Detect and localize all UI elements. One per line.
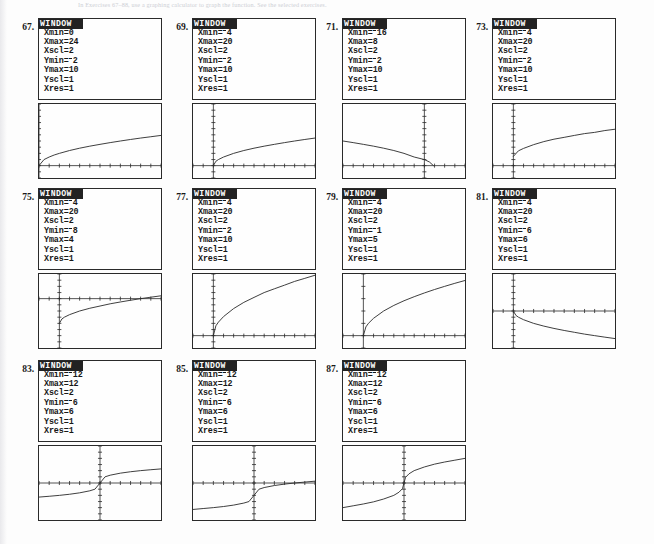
window-settings-list: Xmin=4Xmax=20Xscl=2Ymin=1Ymax=5Yscl=1Xre… [343,199,465,265]
exercise-number: 71. [312,22,338,32]
window-row-xres: Xres=1 [198,427,315,436]
graph-panel [342,445,466,521]
negative-sign: 4 [523,198,532,208]
calculator-screen: WINDOW Xmin=12Xmax=12Xscl=2Ymin=6Ymax=6Y… [38,360,162,521]
window-row-xres: Xres=1 [44,85,161,94]
page-header-text: In Exercises 67–88, use a graphing calcu… [78,1,378,9]
negative-sign: 4 [69,198,78,208]
exercise-number: 85. [162,364,188,374]
graph-panel [38,445,162,521]
scan-edge-artifact [0,0,7,544]
window-settings-list: Xmin=12Xmax=12Xscl=2Ymin=6Ymax=6Yscl=1Xr… [193,371,315,437]
window-settings-panel: WINDOW Xmin=0Xmax=24Xscl=2Ymin=2Ymax=10Y… [38,18,162,100]
exercise-number: 83. [8,364,34,374]
window-settings-list: Xmin=4Xmax=20Xscl=2Ymin=2Ymax=10Yscl=1Xr… [193,199,315,265]
window-settings-panel: WINDOW Xmin=4Xmax=20Xscl=2Ymin=6Ymax=6Ys… [492,188,616,270]
window-settings-panel: WINDOW Xmin=4Xmax=20Xscl=2Ymin=2Ymax=10Y… [492,18,616,100]
calculator-screen: WINDOW Xmin=4Xmax=20Xscl=2Ymin=2Ymax=10Y… [492,18,616,179]
exercise-number: 69. [162,22,188,32]
negative-sign: 6 [69,398,78,408]
calculator-graph-curve [193,104,315,178]
negative-sign: 6 [523,226,532,236]
calculator-screen: WINDOW Xmin=12Xmax=12Xscl=2Ymin=6Ymax=6Y… [192,360,316,521]
calculator-screen: WINDOW Xmin=4Xmax=20Xscl=2Ymin=8Ymax=4Ys… [38,188,162,349]
window-row-xres: Xres=1 [44,255,161,264]
window-settings-list: Xmin=4Xmax=20Xscl=2Ymin=8Ymax=4Yscl=1Xre… [39,199,161,265]
negative-sign: 12 [69,370,83,380]
negative-sign: 2 [373,56,382,66]
window-settings-list: Xmin=4Xmax=20Xscl=2Ymin=2Ymax=10Yscl=1Xr… [193,29,315,95]
window-settings-list: Xmin=4Xmax=20Xscl=2Ymin=6Ymax=6Yscl=1Xre… [493,199,615,265]
calculator-graph-curve [193,446,315,520]
calculator-graph-curve [193,274,315,348]
window-row-xres: Xres=1 [44,427,161,436]
calculator-graph-curve [493,274,615,348]
negative-sign: 4 [223,198,232,208]
window-settings-panel: WINDOW Xmin=4Xmax=20Xscl=2Ymin=1Ymax=5Ys… [342,188,466,270]
calculator-screen: WINDOW Xmin=4Xmax=20Xscl=2Ymin=6Ymax=6Ys… [492,188,616,349]
graph-panel [38,273,162,349]
calculator-screen: WINDOW Xmin=4Xmax=20Xscl=2Ymin=2Ymax=10Y… [192,18,316,179]
calculator-graph-curve [343,446,465,520]
exercise-number: 81. [462,192,488,202]
graph-panel [492,103,616,179]
negative-sign: 12 [373,370,387,380]
calculator-graph-curve [39,104,161,178]
exercise-number: 77. [162,192,188,202]
negative-sign: 4 [373,198,382,208]
window-settings-panel: WINDOW Xmin=4Xmax=20Xscl=2Ymin=2Ymax=10Y… [192,18,316,100]
window-settings-list: Xmin=16Xmax=8Xscl=2Ymin=2Ymax=10Yscl=1Xr… [343,29,465,95]
negative-sign: 16 [373,28,387,38]
window-settings-list: Xmin=4Xmax=20Xscl=2Ymin=2Ymax=10Yscl=1Xr… [493,29,615,95]
window-row-xres: Xres=1 [498,85,615,94]
window-row-xres: Xres=1 [348,85,465,94]
negative-sign: 6 [373,398,382,408]
negative-sign: 4 [223,28,232,38]
calculator-graph-curve [39,274,161,348]
calculator-screen: WINDOW Xmin=16Xmax=8Xscl=2Ymin=2Ymax=10Y… [342,18,466,179]
window-settings-panel: WINDOW Xmin=4Xmax=20Xscl=2Ymin=8Ymax=4Ys… [38,188,162,270]
exercise-number: 75. [8,192,34,202]
negative-sign: 2 [223,226,232,236]
window-row-xres: Xres=1 [198,85,315,94]
window-settings-panel: WINDOW Xmin=12Xmax=12Xscl=2Ymin=6Ymax=6Y… [342,360,466,442]
window-row-xres: Xres=1 [348,427,465,436]
graph-panel [492,273,616,349]
exercise-number: 87. [312,364,338,374]
window-settings-list: Xmin=12Xmax=12Xscl=2Ymin=6Ymax=6Yscl=1Xr… [343,371,465,437]
calculator-graph-curve [343,104,465,178]
exercise-number: 79. [312,192,338,202]
negative-sign: 1 [373,226,382,236]
negative-sign: 12 [223,370,237,380]
calculator-screen: WINDOW Xmin=4Xmax=20Xscl=2Ymin=2Ymax=10Y… [192,188,316,349]
graph-panel [342,103,466,179]
calculator-graph-curve [39,446,161,520]
window-row-xres: Xres=1 [198,255,315,264]
calculator-screen: WINDOW Xmin=12Xmax=12Xscl=2Ymin=6Ymax=6Y… [342,360,466,521]
exercise-page: In Exercises 67–88, use a graphing calcu… [0,0,654,544]
negative-sign: 2 [223,56,232,66]
exercise-number: 67. [8,22,34,32]
calculator-graph-curve [493,104,615,178]
calculator-screen: WINDOW Xmin=0Xmax=24Xscl=2Ymin=2Ymax=10Y… [38,18,162,179]
negative-sign: 8 [69,226,78,236]
window-settings-list: Xmin=0Xmax=24Xscl=2Ymin=2Ymax=10Yscl=1Xr… [39,29,161,95]
negative-sign: 2 [69,56,78,66]
window-settings-panel: WINDOW Xmin=16Xmax=8Xscl=2Ymin=2Ymax=10Y… [342,18,466,100]
graph-panel [342,273,466,349]
window-row-xres: Xres=1 [498,255,615,264]
window-row-xres: Xres=1 [348,255,465,264]
graph-panel [192,273,316,349]
exercise-number: 73. [462,22,488,32]
graph-panel [192,445,316,521]
window-settings-panel: WINDOW Xmin=12Xmax=12Xscl=2Ymin=6Ymax=6Y… [38,360,162,442]
calculator-graph-curve [343,274,465,348]
window-settings-panel: WINDOW Xmin=4Xmax=20Xscl=2Ymin=2Ymax=10Y… [192,188,316,270]
window-settings-panel: WINDOW Xmin=12Xmax=12Xscl=2Ymin=6Ymax=6Y… [192,360,316,442]
graph-panel [192,103,316,179]
negative-sign: 4 [523,28,532,38]
graph-panel [38,103,162,179]
negative-sign: 2 [523,56,532,66]
negative-sign: 6 [223,398,232,408]
calculator-screen: WINDOW Xmin=4Xmax=20Xscl=2Ymin=1Ymax=5Ys… [342,188,466,349]
